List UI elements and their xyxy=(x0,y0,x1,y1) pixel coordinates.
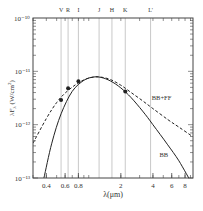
data-point xyxy=(76,79,80,83)
band-label: I xyxy=(77,7,79,13)
band-lines xyxy=(61,18,151,178)
curve-annotation: BB xyxy=(159,151,168,158)
y-tick-label: 10⁻¹¹ xyxy=(15,68,30,76)
y-tick-label: 10⁻¹³ xyxy=(15,175,30,183)
band-label: L' xyxy=(148,7,153,13)
y-axis-label: λFλ (W/cm2) xyxy=(7,79,17,115)
band-label: J xyxy=(98,7,101,13)
curves xyxy=(33,77,193,185)
band-label: K xyxy=(123,7,128,13)
sed-chart: VRIJHKL' 0.40.60.82468 10⁻¹⁰10⁻¹¹10⁻¹²10… xyxy=(0,0,203,211)
data-point xyxy=(123,89,127,93)
x-tick-label: 0.6 xyxy=(61,182,70,190)
curve-bb-ff xyxy=(33,77,193,143)
x-tick-label: 0.8 xyxy=(74,182,83,190)
band-label: R xyxy=(66,7,70,13)
annotations: BB+FFBB xyxy=(152,94,172,158)
y-tick-label: 10⁻¹² xyxy=(15,121,30,129)
curve-bb xyxy=(44,77,193,185)
x-tick-label: 4 xyxy=(151,182,155,190)
x-tick-label: 6 xyxy=(170,182,174,190)
y-tick-label: 10⁻¹⁰ xyxy=(14,15,30,23)
x-tick-label: 0.4 xyxy=(42,182,51,190)
x-axis-label: λ(μm) xyxy=(103,190,123,199)
x-tick-label: 8 xyxy=(183,182,187,190)
curve-annotation: BB+FF xyxy=(152,94,172,101)
band-label: V xyxy=(59,7,64,13)
data-point xyxy=(66,86,70,90)
x-tick-label: 2 xyxy=(119,182,123,190)
band-labels: VRIJHKL' xyxy=(59,7,153,13)
band-label: H xyxy=(110,7,115,13)
data-point xyxy=(59,98,63,102)
